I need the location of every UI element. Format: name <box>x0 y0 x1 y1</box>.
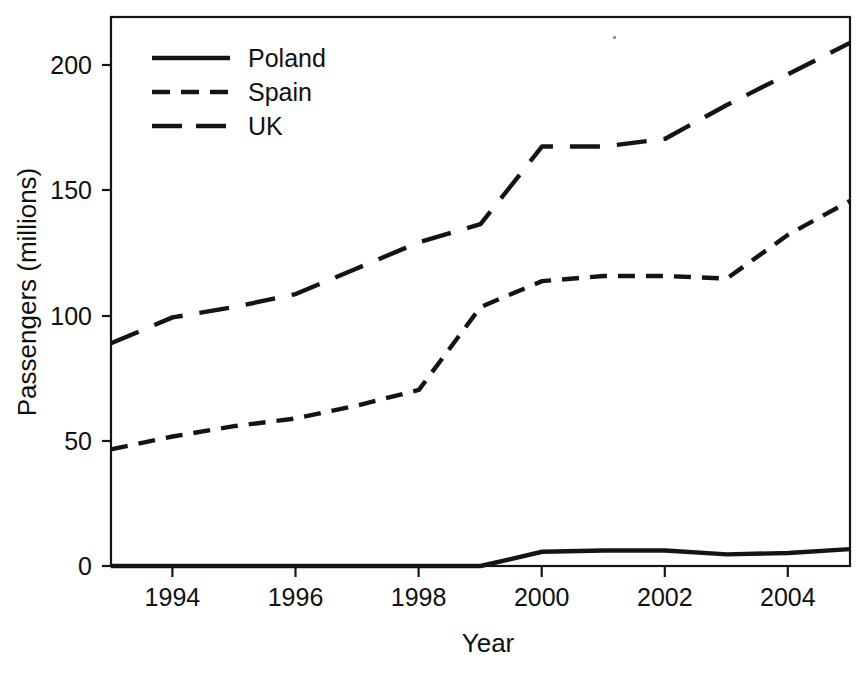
x-tick-label-1996: 1996 <box>268 583 324 611</box>
scan-artifact-dot <box>613 36 616 39</box>
x-axis-tick-labels: 1994 1996 1998 2000 2002 2004 <box>145 583 816 611</box>
series-group <box>111 43 850 566</box>
x-tick-label-2000: 2000 <box>514 583 570 611</box>
y-axis-ticks <box>102 65 111 566</box>
line-chart-canvas: 200 150 100 50 0 1994 1996 1998 2000 200… <box>0 0 867 674</box>
x-tick-label-2004: 2004 <box>760 583 816 611</box>
y-tick-label-0: 0 <box>78 552 92 580</box>
plot-border <box>111 17 850 566</box>
y-tick-label-200: 200 <box>50 51 92 79</box>
plot-frame <box>111 17 850 566</box>
legend: Poland Spain UK <box>152 44 326 140</box>
series-line-uk <box>111 43 850 343</box>
y-tick-label-50: 50 <box>64 427 92 455</box>
series-line-poland <box>111 549 850 566</box>
y-tick-label-100: 100 <box>50 302 92 330</box>
legend-label-uk: UK <box>248 112 283 140</box>
x-tick-label-2002: 2002 <box>637 583 693 611</box>
chart-figure: 200 150 100 50 0 1994 1996 1998 2000 200… <box>0 0 867 674</box>
y-axis-tick-labels: 200 150 100 50 0 <box>50 51 92 580</box>
x-axis-title: Year <box>462 628 515 658</box>
x-tick-label-1998: 1998 <box>391 583 447 611</box>
series-line-spain <box>111 201 850 450</box>
legend-label-spain: Spain <box>248 78 312 106</box>
y-tick-label-150: 150 <box>50 176 92 204</box>
y-axis-title: Passengers (millions) <box>12 168 42 417</box>
legend-label-poland: Poland <box>248 44 326 72</box>
x-tick-label-1994: 1994 <box>145 583 201 611</box>
